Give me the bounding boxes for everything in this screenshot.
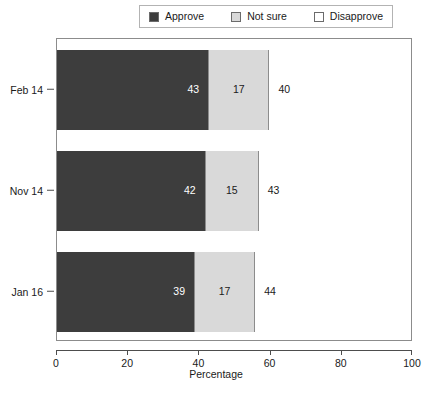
bar-segment-approve: 42 — [57, 151, 206, 231]
bar-row: 431740 — [57, 50, 411, 130]
y-axis-tick-label: Feb 14 — [10, 84, 43, 95]
bar-value-label: 17 — [224, 84, 254, 95]
y-axis-tick-label: Jan 16 — [11, 286, 43, 297]
y-axis-tick-jan-16: Jan 16 — [11, 286, 57, 297]
bar-value-label: 15 — [217, 185, 247, 196]
stacked-bar-group: Feb 14431740Nov 14421543Jan 16391744 — [57, 39, 411, 340]
y-axis-tick-feb-14: Feb 14 — [10, 84, 57, 95]
bar-segment-approve: 43 — [57, 50, 209, 130]
x-axis-title: Percentage — [0, 369, 432, 380]
tick-mark-icon — [47, 190, 54, 191]
bar-row: 421543 — [57, 151, 411, 231]
square-swatch-icon — [314, 12, 324, 22]
plot-panel: Feb 14431740Nov 14421543Jan 16391744 — [56, 38, 412, 341]
bar-value-label: 17 — [210, 286, 240, 297]
legend-label: Not sure — [247, 11, 287, 22]
x-axis-tick-mark — [56, 350, 57, 355]
tick-mark-icon — [47, 291, 54, 292]
x-axis-tick-label: 80 — [335, 358, 347, 369]
tick-mark-icon — [47, 89, 54, 90]
chart-legend: Approve Not sure Disapprove — [139, 5, 393, 28]
y-axis-tick-label: Nov 14 — [10, 185, 43, 196]
legend-item-disapprove: Disapprove — [314, 11, 383, 22]
x-axis-tick-label: 40 — [193, 358, 205, 369]
bar-segment-disapprove: 44 — [255, 252, 411, 332]
x-axis-tick-label: 20 — [121, 358, 133, 369]
bar-value-label: 42 — [175, 185, 205, 196]
legend-item-not-sure: Not sure — [231, 11, 287, 22]
x-axis-tick-label: 0 — [53, 358, 59, 369]
x-axis-tick-mark — [270, 350, 271, 355]
bar-value-label: 43 — [179, 84, 209, 95]
y-axis-tick-nov-14: Nov 14 — [10, 185, 57, 196]
bar-segment-not-sure: 15 — [206, 151, 259, 231]
x-axis-tick-mark — [198, 350, 199, 355]
bar-segment-not-sure: 17 — [209, 50, 269, 130]
bar-row: 391744 — [57, 252, 411, 332]
bar-segment-disapprove: 43 — [259, 151, 411, 231]
x-axis-tick-mark — [341, 350, 342, 355]
square-swatch-icon — [149, 12, 159, 22]
x-axis: 020406080100 — [56, 350, 412, 351]
bar-value-label: 43 — [259, 185, 289, 196]
square-swatch-icon — [231, 12, 241, 22]
x-axis-tick-label: 60 — [264, 358, 276, 369]
legend-label: Disapprove — [330, 11, 383, 22]
legend-label: Approve — [165, 11, 204, 22]
bar-value-label: 39 — [164, 286, 194, 297]
bar-segment-not-sure: 17 — [195, 252, 255, 332]
bar-value-label: 40 — [269, 84, 299, 95]
x-axis-tick-mark — [411, 350, 412, 355]
bar-segment-approve: 39 — [57, 252, 195, 332]
legend-item-approve: Approve — [149, 11, 204, 22]
bar-segment-disapprove: 40 — [269, 50, 411, 130]
x-axis-tick-label: 100 — [403, 358, 421, 369]
bar-value-label: 44 — [255, 286, 285, 297]
x-axis-tick-mark — [127, 350, 128, 355]
